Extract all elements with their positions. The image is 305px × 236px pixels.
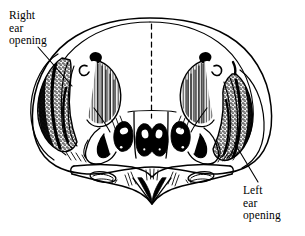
right-ear-label-line1: Right — [9, 9, 47, 22]
rostrum — [125, 169, 179, 204]
right-ear-opening-label: Right ear opening — [9, 9, 47, 47]
right-orbital-region — [79, 53, 120, 132]
left-ear-label-line1: Left — [243, 184, 281, 197]
left-orbital-region — [180, 53, 221, 132]
right-cheek-hatch — [66, 152, 86, 162]
figure-container: Right ear opening Left ear opening — [0, 0, 305, 236]
left-ear-opening-label: Left ear opening — [243, 184, 281, 222]
right-jugal-process — [84, 128, 116, 164]
left-ear-label-line2: ear — [243, 197, 281, 210]
narial-openings — [114, 122, 190, 156]
rostrum-detail-marks — [112, 179, 191, 183]
right-ear-label-line2: ear — [9, 22, 47, 35]
right-ear-label-line3: opening — [9, 34, 47, 47]
left-ear-label-line3: opening — [243, 209, 281, 222]
frontal-bar — [128, 111, 176, 113]
